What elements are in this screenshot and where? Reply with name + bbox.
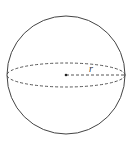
sphere-figure: r: [0, 0, 135, 144]
sphere-diagram: r: [0, 0, 135, 144]
center-point: [65, 74, 68, 77]
radius-label: r: [89, 63, 93, 74]
